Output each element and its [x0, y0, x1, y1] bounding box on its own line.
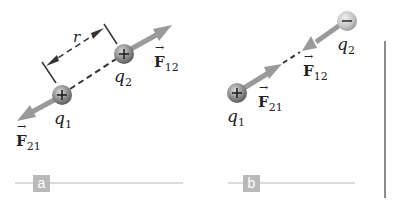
label-q2: q2	[337, 34, 355, 57]
panel-tag-b: b	[243, 175, 260, 192]
label-q2-sub: 2	[348, 44, 355, 57]
label-f12-sub: 12	[314, 70, 328, 83]
label-q2: q2	[114, 66, 132, 89]
force-arrow-f12	[131, 25, 172, 49]
charge-q1	[52, 85, 72, 105]
label-f21-name: F	[258, 93, 269, 111]
label-f12-sub: 12	[165, 61, 179, 74]
charge-q2	[114, 44, 134, 64]
label-q1-sub: 1	[65, 118, 72, 131]
label-q1-name: q	[54, 108, 65, 128]
label-f21-sub: 21	[27, 140, 41, 153]
label-f21-name: F	[16, 132, 27, 150]
label-q1-sub: 1	[238, 116, 245, 129]
label-q2-sub: 2	[125, 76, 132, 89]
label-f12-name: F	[154, 53, 165, 71]
force-arrow-f12	[302, 25, 340, 51]
label-q1: q1	[54, 108, 72, 131]
separation-line	[283, 52, 300, 63]
label-f12: F12	[154, 53, 179, 74]
label-q1-name: q	[227, 106, 238, 126]
label-f21-sub: 21	[269, 101, 283, 114]
label-f21: F21	[16, 132, 41, 153]
force-arrow-f21	[17, 99, 56, 121]
label-q2-name: q	[114, 66, 125, 86]
distance-label-r: r	[73, 28, 80, 46]
panel-tag-a: a	[33, 175, 50, 192]
charge-q2	[337, 11, 357, 31]
label-q2-name: q	[337, 34, 348, 54]
charge-q1	[227, 83, 247, 103]
label-f21: F21	[258, 93, 283, 114]
separation-line	[70, 59, 116, 89]
label-f12: F12	[303, 62, 328, 83]
coulomb-force-diagram	[0, 0, 393, 209]
label-f12-name: F	[303, 62, 314, 80]
label-q1: q1	[227, 106, 245, 129]
